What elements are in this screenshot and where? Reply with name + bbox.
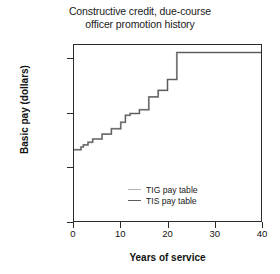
chart-legend: TIG pay tableTIS pay table xyxy=(128,184,198,206)
legend-label: TIS pay table xyxy=(146,196,197,206)
chart-title-line-2: officer promotion history xyxy=(0,18,280,31)
series-line xyxy=(74,53,261,150)
x-axis-label: Years of service xyxy=(73,252,262,263)
legend-label: TIG pay table xyxy=(146,185,198,195)
chart-title-line-1: Constructive credit, due-course xyxy=(0,5,280,18)
x-tick-label: 30 xyxy=(200,228,230,239)
chart-figure: Constructive credit, due-course officer … xyxy=(0,0,280,274)
x-tick-mark xyxy=(73,222,74,228)
chart-title: Constructive credit, due-course officer … xyxy=(0,5,280,31)
legend-item: TIS pay table xyxy=(128,195,198,206)
x-tick-mark xyxy=(262,222,263,228)
x-tick-label: 0 xyxy=(58,228,88,239)
x-tick-mark xyxy=(120,222,121,228)
legend-item: TIG pay table xyxy=(128,184,198,195)
legend-swatch xyxy=(128,189,141,190)
x-tick-mark xyxy=(215,222,216,228)
x-tick-label: 20 xyxy=(153,228,183,239)
x-tick-label: 10 xyxy=(105,228,135,239)
y-axis-label: Basic pay (dollars) xyxy=(19,35,30,185)
x-tick-label: 40 xyxy=(247,228,277,239)
x-tick-mark xyxy=(168,222,169,228)
legend-swatch xyxy=(128,200,141,201)
